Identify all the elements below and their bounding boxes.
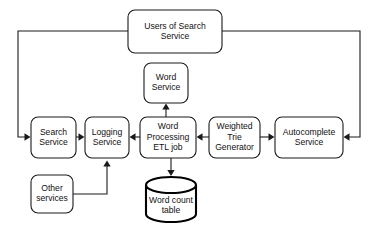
edge-trie-to-etl [197, 133, 210, 140]
edge-etl-to-logging [130, 133, 141, 140]
node-users-of-search-service[interactable]: Users of Search Service [128, 10, 222, 53]
node-other-services[interactable]: Other services [31, 175, 73, 213]
node-label: Processing [147, 132, 190, 142]
node-label: Service [295, 137, 324, 147]
node-label: Users of Search [144, 21, 206, 31]
node-search-service[interactable]: Search Service [31, 117, 76, 158]
diagram-canvas: Users of Search Service Word Service Sea… [0, 0, 375, 235]
node-label: Logging [92, 127, 123, 137]
node-label: Service [39, 137, 68, 147]
edges-layer [18, 31, 360, 194]
arrow-head-left [344, 133, 350, 140]
node-label: Generator [215, 142, 254, 152]
node-label: services [36, 193, 68, 203]
node-label: Autocomplete [283, 127, 336, 137]
edge-other-services-to-logging [73, 161, 111, 195]
arrow-head-left [130, 133, 136, 140]
arrow-head-up [162, 104, 169, 110]
arrow-head-up [103, 161, 110, 167]
node-label: Trie [227, 132, 242, 142]
node-logging-service[interactable]: Logging Service [85, 117, 129, 158]
node-label: table [162, 205, 181, 215]
node-label: Service [93, 137, 122, 147]
arrow-head-left [197, 133, 203, 140]
node-label: ETL job [153, 142, 183, 152]
arrow-head-down [167, 170, 174, 176]
node-label: Word [158, 121, 179, 131]
node-label: Search [40, 127, 67, 137]
edge-trie-to-autocomplete [260, 133, 275, 140]
node-label: Other [41, 183, 63, 193]
node-label: Service [152, 82, 181, 92]
cylinder-top [146, 177, 196, 193]
node-word-count-table[interactable]: Word count table [146, 177, 196, 222]
arrow-head-right [79, 133, 85, 140]
node-label: Word count [149, 195, 193, 205]
node-label: Weighted [216, 121, 252, 131]
nodes-layer: Users of Search Service Word Service Sea… [31, 10, 343, 222]
node-label: Word [156, 72, 177, 82]
architecture-diagram: Users of Search Service Word Service Sea… [0, 0, 375, 235]
edge-search-to-logging [76, 133, 85, 140]
node-weighted-trie-generator[interactable]: Weighted Trie Generator [209, 117, 260, 158]
edge-etl-to-word-service [162, 104, 169, 118]
node-label: Service [161, 31, 190, 41]
arrow-head-right [269, 133, 275, 140]
node-autocomplete-service[interactable]: Autocomplete Service [275, 117, 343, 158]
edge-line [73, 164, 107, 194]
arrow-head-right [25, 133, 31, 140]
edge-etl-to-word-count-table [167, 158, 174, 176]
node-word-processing-etl-job[interactable]: Word Processing ETL job [140, 117, 196, 158]
node-word-service[interactable]: Word Service [144, 63, 188, 103]
